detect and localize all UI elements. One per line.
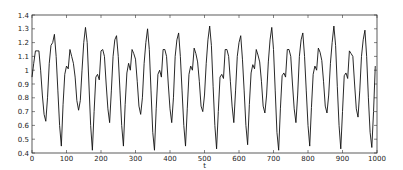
x-tick-label: 400 [163,155,176,163]
x-axis-label: t [203,162,206,170]
x-tick-label: 300 [129,155,142,163]
x-tick-label: 800 [301,155,314,163]
x-tick-label: 0 [30,155,34,163]
x-tick-label: 100 [60,155,73,163]
series-line [32,26,375,150]
y-tick-label: 1.2 [18,39,29,47]
x-tick-label: 700 [267,155,280,163]
y-tick-label: 1.4 [18,12,30,20]
y-tick-label: 0.4 [18,150,30,158]
plot-frame [32,15,377,153]
y-tick-label: 1.1 [18,53,29,61]
line-chart: 0.40.50.60.70.80.911.11.21.31.4 01002003… [0,0,403,170]
y-tick-label: 0.8 [18,94,29,102]
y-tick-label: 0.5 [18,136,29,144]
plot-border [32,15,377,153]
x-tick-label: 1000 [368,155,386,163]
y-tick-label: 0.9 [18,81,29,89]
y-tick-label: 1 [25,67,29,75]
series-layer [32,26,375,150]
x-tick-label: 600 [232,155,245,163]
y-tick-label: 1.3 [18,25,29,33]
y-tick-label: 0.6 [18,122,30,130]
x-tick-label: 200 [94,155,107,163]
x-tick-label: 900 [336,155,349,163]
y-tick-label: 0.7 [18,108,29,116]
y-axis: 0.40.50.60.70.80.911.11.21.31.4 [18,12,377,158]
